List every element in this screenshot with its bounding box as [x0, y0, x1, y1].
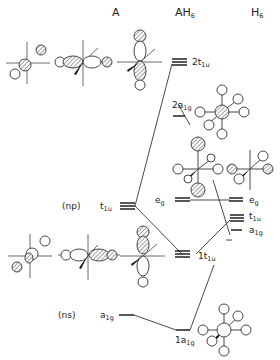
label-ns: (ns): [58, 310, 75, 320]
orbital-eg-cluster-2: [227, 150, 273, 190]
orbital-top-2: [55, 40, 112, 86]
orbital-top-3: [117, 30, 162, 90]
level-h6-eg: [229, 198, 243, 201]
level-a-t1u: [120, 203, 135, 209]
label-a-t1u: t1u: [100, 201, 112, 213]
orbital-bottom-3: [120, 226, 165, 287]
level-2t1u: [172, 59, 187, 65]
level-1t1u: [175, 251, 190, 257]
label-h6-t1u: t1u: [249, 211, 261, 223]
label-h6-a1g: a1g: [249, 225, 263, 237]
orbital-1a1g-cluster: [198, 304, 251, 356]
orbital-bottom-2: [58, 234, 120, 280]
label-h6-eg: eg: [249, 195, 259, 207]
column-header-a: A: [112, 6, 120, 19]
label-a-a1g: a1g: [100, 310, 114, 322]
label-1t1u: 1t1u: [198, 251, 216, 263]
orbital-bottom-1: [8, 234, 52, 278]
label-2t1u: 2t1u: [192, 57, 210, 69]
orbital-2a1g-cluster: [195, 85, 249, 139]
label-np: (np): [62, 201, 80, 211]
level-h6-t1u: [230, 215, 244, 221]
mo-diagram: A AH6 H6 (np) t1u (ns) a1g 2t1u: [0, 0, 280, 360]
orbital-top-1: [6, 42, 50, 84]
label-1a1g: 1a1g: [175, 335, 195, 347]
column-header-ah6: AH6: [175, 6, 195, 20]
column-header-h6: H6: [251, 6, 263, 20]
level-eg-middle: [175, 198, 190, 201]
label-eg-middle: eg: [155, 195, 165, 207]
